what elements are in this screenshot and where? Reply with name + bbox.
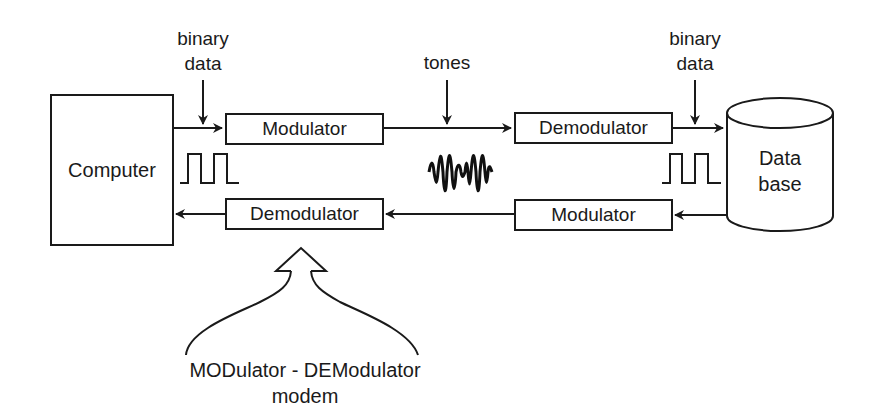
tones-label: tones [407, 52, 487, 74]
database-label: Data base [740, 145, 820, 197]
demodulator-label-bottom: Demodulator [250, 203, 359, 225]
computer-box: Computer [50, 94, 174, 246]
data-label: data [655, 51, 735, 76]
binary-label: binary [655, 26, 735, 51]
modem-caption-line2: modem [140, 383, 470, 409]
database-label-line1: Data [740, 145, 820, 171]
demodulator-label-top: Demodulator [539, 117, 648, 139]
square-wave-icon [662, 154, 721, 183]
square-wave-icon [180, 154, 239, 183]
database-label-line2: base [740, 171, 820, 197]
modulator-label-top: Modulator [262, 118, 347, 140]
binary-data-label-right: binary data [655, 26, 735, 76]
demodulator-box-top: Demodulator [514, 112, 673, 144]
modem-caption-line1: MODulator - DEModulator [140, 357, 470, 383]
modem-caption: MODulator - DEModulator modem [140, 357, 470, 409]
demodulator-box-bottom: Demodulator [225, 198, 384, 230]
computer-label: Computer [68, 159, 156, 182]
modulator-box-bottom: Modulator [514, 199, 673, 231]
modulator-box-top: Modulator [225, 113, 384, 145]
data-label: data [163, 51, 243, 76]
modulator-label-bottom: Modulator [551, 204, 636, 226]
binary-label: binary [163, 26, 243, 51]
tone-waveform-icon [429, 156, 492, 191]
binary-data-label-left: binary data [163, 26, 243, 76]
hollow-up-arrow-icon [186, 248, 418, 355]
